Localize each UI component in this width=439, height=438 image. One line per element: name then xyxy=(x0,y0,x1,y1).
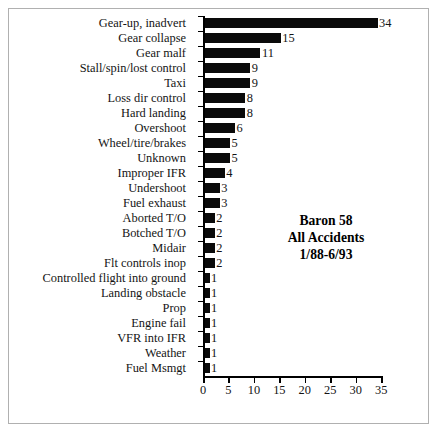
y-axis-tick xyxy=(198,46,204,47)
bar-value-label: 34 xyxy=(379,16,391,31)
bar-row: Overshoot6 xyxy=(9,121,428,136)
y-axis-tick xyxy=(198,256,204,257)
bar-row: Stall/spin/lost control9 xyxy=(9,61,428,76)
x-axis-tick xyxy=(305,378,307,383)
bar-row: Gear collapse15 xyxy=(9,31,428,46)
category-label: Weather xyxy=(145,346,186,361)
bar xyxy=(205,303,210,313)
chart-frame: Gear-up, inadvert34Gear collapse15Gear m… xyxy=(8,8,429,424)
bar xyxy=(205,288,210,298)
bar-value-label: 1 xyxy=(211,286,217,301)
bar-value-label: 5 xyxy=(231,136,237,151)
y-axis-tick xyxy=(198,361,204,362)
bar-value-label: 8 xyxy=(247,91,253,106)
bar-value-label: 4 xyxy=(226,166,232,181)
y-axis-tick xyxy=(198,271,204,272)
bar-row: VFR into IFR1 xyxy=(9,331,428,346)
bar-row: Controlled flight into ground1 xyxy=(9,271,428,286)
category-label: Landing obstacle xyxy=(101,286,186,301)
category-label: Flt controls inop xyxy=(104,256,186,271)
category-label: Unknown xyxy=(137,151,186,166)
bar xyxy=(205,183,220,193)
y-axis-tick xyxy=(198,241,204,242)
bar xyxy=(205,138,230,148)
category-label: Engine fail xyxy=(131,316,186,331)
bar-row: Taxi9 xyxy=(9,76,428,91)
category-label: Aborted T/O xyxy=(123,211,186,226)
bar xyxy=(205,78,251,88)
annotation-line-3: 1/88-6/93 xyxy=(251,246,401,263)
bar-value-label: 3 xyxy=(221,196,227,211)
bar xyxy=(205,108,246,118)
y-axis-tick xyxy=(198,226,204,227)
category-label: Midair xyxy=(152,241,186,256)
y-axis-tick xyxy=(198,316,204,317)
category-label: Hard landing xyxy=(121,106,186,121)
bar-chart-plot-area: Gear-up, inadvert34Gear collapse15Gear m… xyxy=(9,9,428,423)
category-label: Fuel exhaust xyxy=(123,196,186,211)
y-axis-tick xyxy=(198,211,204,212)
category-label: Gear malf xyxy=(136,46,186,61)
bar-value-label: 2 xyxy=(216,211,222,226)
bar-value-label: 1 xyxy=(211,331,217,346)
bar xyxy=(205,363,210,373)
bar-row: Fuel Msmgt1 xyxy=(9,361,428,376)
x-axis-tick xyxy=(203,378,205,383)
category-label: Gear-up, inadvert xyxy=(99,16,186,31)
bar-row: Gear malf11 xyxy=(9,46,428,61)
bar-value-label: 2 xyxy=(216,256,222,271)
category-label: Improper IFR xyxy=(118,166,186,181)
bar xyxy=(205,198,220,208)
bar xyxy=(205,228,215,238)
bar xyxy=(205,348,210,358)
bar-row: Engine fail1 xyxy=(9,316,428,331)
y-axis-tick xyxy=(198,31,204,32)
bar-value-label: 8 xyxy=(247,106,253,121)
category-label: VFR into IFR xyxy=(117,331,186,346)
x-axis-tick-label: 35 xyxy=(361,383,401,397)
x-axis-tick xyxy=(254,378,256,383)
bar xyxy=(205,273,210,283)
bar-value-label: 1 xyxy=(211,346,217,361)
bar xyxy=(205,63,251,73)
bar-value-label: 1 xyxy=(211,316,217,331)
category-label: Wheel/tire/brakes xyxy=(98,136,186,151)
bar-value-label: 6 xyxy=(237,121,243,136)
bar xyxy=(205,168,225,178)
bar-value-label: 2 xyxy=(216,226,222,241)
bar-row: Landing obstacle1 xyxy=(9,286,428,301)
bar-row: Improper IFR4 xyxy=(9,166,428,181)
bar xyxy=(205,18,378,28)
category-label: Controlled flight into ground xyxy=(42,271,186,286)
chart-annotation: Baron 58 All Accidents 1/88-6/93 xyxy=(251,212,401,263)
y-axis-tick xyxy=(198,151,204,152)
y-axis-tick xyxy=(198,16,204,17)
y-axis-tick xyxy=(198,136,204,137)
bar-value-label: 9 xyxy=(252,76,258,91)
y-axis-tick xyxy=(198,121,204,122)
bar xyxy=(205,258,215,268)
bar-row: Prop1 xyxy=(9,301,428,316)
y-axis-tick xyxy=(198,166,204,167)
bar-row: Wheel/tire/brakes5 xyxy=(9,136,428,151)
x-axis-tick xyxy=(228,378,230,383)
y-axis-tick xyxy=(198,91,204,92)
bar xyxy=(205,243,215,253)
category-label: Fuel Msmgt xyxy=(126,361,186,376)
x-axis-tick xyxy=(381,378,383,383)
bar xyxy=(205,318,210,328)
annotation-line-1: Baron 58 xyxy=(251,212,401,229)
bar-value-label: 9 xyxy=(252,61,258,76)
bar xyxy=(205,123,236,133)
bar-row: Unknown5 xyxy=(9,151,428,166)
bar xyxy=(205,333,210,343)
bar-value-label: 3 xyxy=(221,181,227,196)
category-label: Prop xyxy=(163,301,186,316)
bar-row: Gear-up, inadvert34 xyxy=(9,16,428,31)
bar-value-label: 11 xyxy=(262,46,274,61)
y-axis-tick xyxy=(198,196,204,197)
y-axis-tick xyxy=(198,106,204,107)
bar-value-label: 1 xyxy=(211,301,217,316)
category-label: Stall/spin/lost control xyxy=(80,61,186,76)
bar xyxy=(205,33,281,43)
